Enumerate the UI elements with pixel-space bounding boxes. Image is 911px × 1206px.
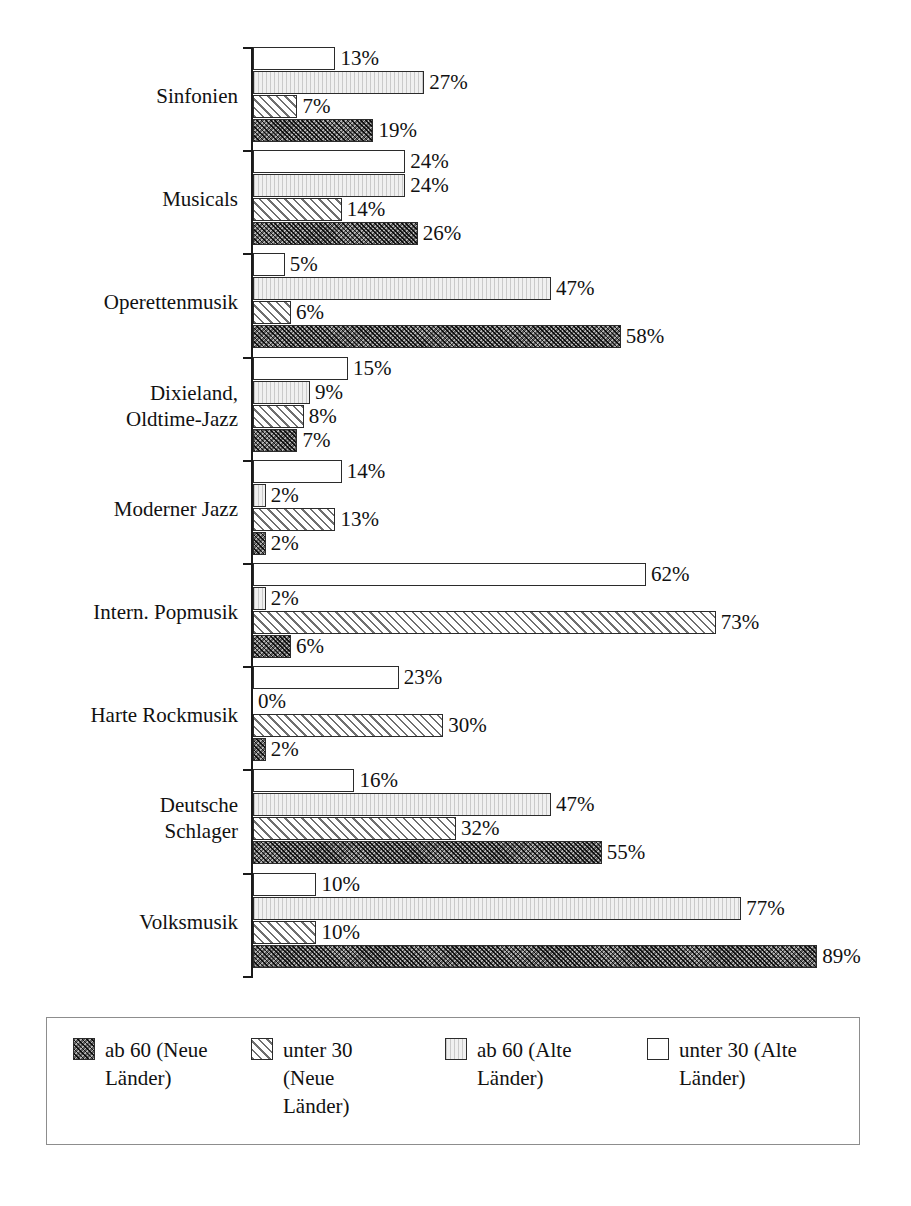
bar-chart: Sinfonien13%27%7%19%Musicals24%24%14%26%… [0,0,911,1000]
bar-value-label: 55% [602,840,646,865]
bar[interactable] [253,769,354,792]
category-label-line: Schlager [0,818,238,844]
category-label-line: Intern. Popmusik [0,599,238,625]
bar-value-label: 2% [266,586,299,611]
category-label-line: Sinfonien [0,83,238,109]
category-label: Volksmusik [0,909,238,935]
bar-value-label: 30% [443,713,487,738]
chart-legend: ab 60 (Neue Länder)unter 30 (Neue Länder… [46,1017,860,1145]
bar-value-label: 2% [266,737,299,762]
bar-value-label: 23% [399,665,443,690]
legend-item[interactable]: unter 30 (Alte Länder) [647,1036,857,1092]
bar[interactable] [253,301,291,324]
legend-swatch-icon [251,1038,273,1060]
bar-value-label: 27% [424,70,468,95]
bar[interactable] [253,484,266,507]
bar-value-label: 10% [316,872,360,897]
bar[interactable] [253,714,443,737]
bar-value-label: 77% [741,896,785,921]
bar-group: DeutscheSchlager16%47%32%55% [0,769,911,872]
category-label: Harte Rockmusik [0,702,238,728]
bar-group: Intern. Popmusik62%2%73%6% [0,563,911,666]
bar[interactable] [253,738,266,761]
legend-label: ab 60 (Alte Länder) [477,1036,605,1092]
bar[interactable] [253,405,304,428]
legend-item[interactable]: unter 30 (Neue Länder) [251,1036,401,1120]
category-label: Operettenmusik [0,289,238,315]
bar-group: Sinfonien13%27%7%19% [0,47,911,150]
category-label-line: Oldtime-Jazz [0,406,238,432]
bar[interactable] [253,873,316,896]
category-label-line: Musicals [0,186,238,212]
bar[interactable] [253,429,297,452]
bar-value-label: 10% [316,920,360,945]
bar[interactable] [253,119,373,142]
bar-value-label: 5% [285,252,318,277]
legend-item[interactable]: ab 60 (Neue Länder) [73,1036,249,1092]
bar[interactable] [253,793,551,816]
category-label: Intern. Popmusik [0,599,238,625]
bar[interactable] [253,253,285,276]
bar-value-label: 15% [348,356,392,381]
bar[interactable] [253,71,424,94]
category-label: Sinfonien [0,83,238,109]
legend-label: unter 30 (Neue Länder) [283,1036,401,1120]
bar-value-label: 13% [335,507,379,532]
bar-value-label: 62% [646,562,690,587]
bar[interactable] [253,381,310,404]
bar-value-label: 6% [291,634,324,659]
category-label-line: Dixieland, [0,380,238,406]
bar-value-label: 32% [456,816,500,841]
bar[interactable] [253,357,348,380]
bar[interactable] [253,635,291,658]
bar-value-label: 14% [342,459,386,484]
category-label: Musicals [0,186,238,212]
bar[interactable] [253,95,297,118]
category-label-line: Deutsche [0,792,238,818]
bar[interactable] [253,666,399,689]
bar-value-label: 7% [297,428,330,453]
bar[interactable] [253,222,418,245]
bar[interactable] [253,325,621,348]
bar-value-label: 2% [266,483,299,508]
bar[interactable] [253,460,342,483]
category-label-line: Moderner Jazz [0,496,238,522]
category-label: Dixieland,Oldtime-Jazz [0,380,238,432]
bar[interactable] [253,277,551,300]
bar[interactable] [253,611,716,634]
bar[interactable] [253,150,405,173]
legend-swatch-icon [73,1038,95,1060]
bar[interactable] [253,587,266,610]
bar-value-label: 2% [266,531,299,556]
bar[interactable] [253,897,741,920]
legend-label: unter 30 (Alte Länder) [679,1036,857,1092]
bar[interactable] [253,841,602,864]
bar[interactable] [253,817,456,840]
bar[interactable] [253,198,342,221]
bar-group: Harte Rockmusik23%0%30%2% [0,666,911,769]
legend-item[interactable]: ab 60 (Alte Länder) [445,1036,605,1092]
legend-item-list: ab 60 (Neue Länder)unter 30 (Neue Länder… [47,1018,859,1144]
legend-swatch-icon [445,1038,467,1060]
bar-value-label: 16% [354,768,398,793]
bar[interactable] [253,945,817,968]
bar-group: Volksmusik10%77%10%89% [0,873,911,976]
bar-group: Moderner Jazz14%2%13%2% [0,460,911,563]
bar-group: Operettenmusik5%47%6%58% [0,253,911,356]
bar-value-label: 8% [304,404,337,429]
bar-value-label: 47% [551,792,595,817]
bar-value-label: 47% [551,276,595,301]
bar-value-label: 24% [405,149,449,174]
legend-label: ab 60 (Neue Länder) [105,1036,249,1092]
bar[interactable] [253,532,266,555]
bar[interactable] [253,174,405,197]
bar[interactable] [253,508,335,531]
bar[interactable] [253,921,316,944]
bar[interactable] [253,563,646,586]
bar-value-label: 89% [817,944,861,969]
category-label-line: Volksmusik [0,909,238,935]
bar-value-label: 13% [335,46,379,71]
bar[interactable] [253,47,335,70]
category-label-line: Operettenmusik [0,289,238,315]
bar-value-label: 19% [373,118,417,143]
